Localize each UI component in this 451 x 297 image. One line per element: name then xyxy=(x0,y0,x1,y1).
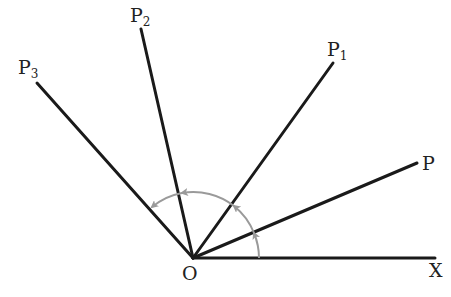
arc-p1-to-p2 xyxy=(182,192,234,206)
label-p: P xyxy=(422,154,435,173)
label-origin: O xyxy=(182,264,198,283)
ray-op3 xyxy=(37,83,193,258)
arc-p-to-p1 xyxy=(234,206,254,233)
arc-x-to-p xyxy=(254,233,259,258)
angle-diagram xyxy=(0,0,451,297)
ray-op2 xyxy=(141,29,193,258)
label-p1: P1 xyxy=(327,40,347,62)
label-p3: P3 xyxy=(18,58,38,80)
label-p2: P2 xyxy=(130,6,150,28)
label-x: X xyxy=(429,261,443,280)
